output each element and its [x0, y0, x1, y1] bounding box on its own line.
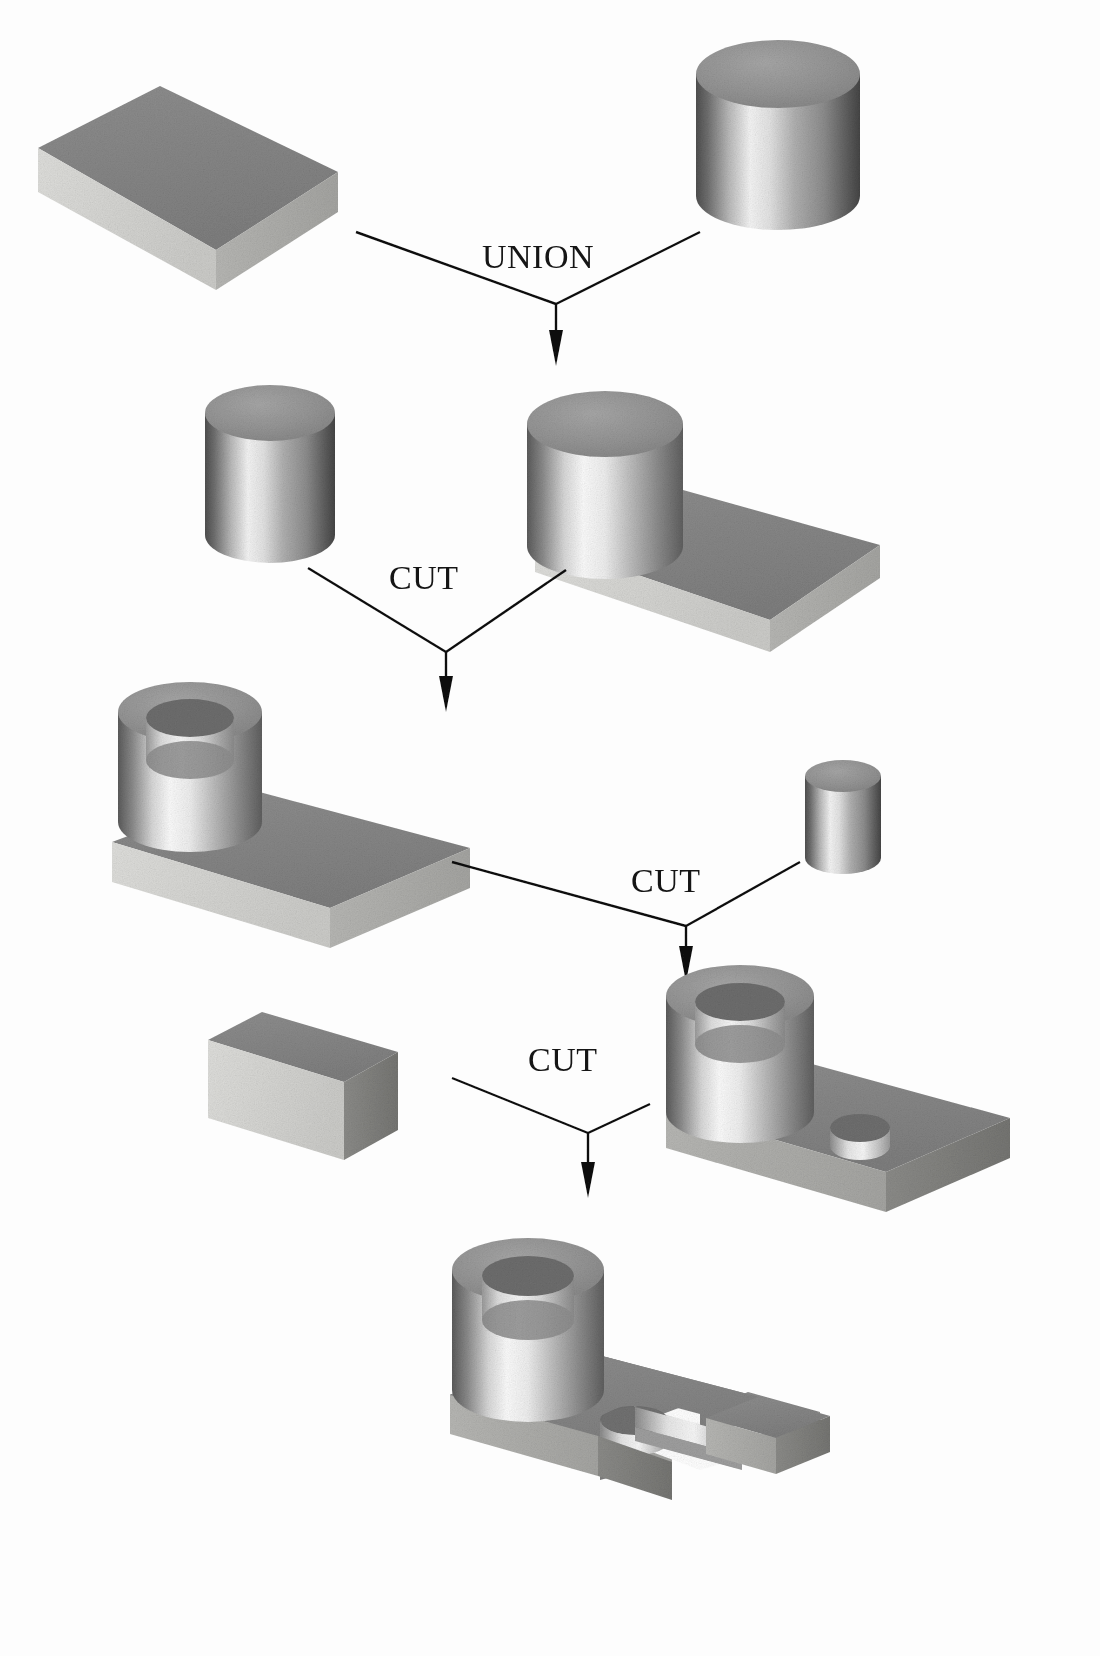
shape-bore-cylinder [205, 385, 335, 563]
operation-label-cut-2: CUT [631, 862, 701, 900]
operation-label-union: UNION [482, 238, 594, 276]
shape-flange-with-small-hole [666, 965, 1010, 1212]
operation-label-cut-1: CUT [389, 559, 459, 597]
shape-large-cylinder [696, 40, 860, 230]
shape-thin-slab [208, 1012, 398, 1160]
operation-label-cut-3: CUT [528, 1041, 598, 1079]
arrowhead-cut-3 [581, 1162, 595, 1198]
arrowhead-cut-1 [439, 676, 453, 712]
shape-final-part-with-slot [450, 1238, 830, 1500]
arrow-cut-2 [452, 862, 800, 960]
shape-rectangular-block [38, 86, 338, 290]
arrowhead-union [549, 330, 563, 366]
shape-block-with-boss [527, 391, 880, 652]
arrow-cut-3 [452, 1078, 650, 1178]
csg-diagram-canvas: UNION CUT CUT CUT [0, 0, 1100, 1656]
shape-block-with-hollow-boss [112, 682, 470, 948]
shape-small-cylinder [805, 760, 881, 874]
